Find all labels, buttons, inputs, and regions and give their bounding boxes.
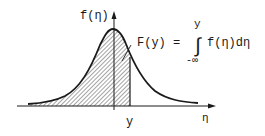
integral-upper-limit: y	[194, 18, 201, 30]
x-axis-label: η	[202, 112, 209, 124]
y-axis-arrow-icon	[112, 11, 117, 19]
shaded-cdf-region	[28, 29, 130, 106]
diagram-canvas: f(η) y η F(y) = ∫ y -∞ f(η)dη	[0, 0, 265, 136]
formula-lhs: F(y) =	[137, 36, 180, 50]
formula-integrand: f(η)dη	[207, 36, 250, 50]
integral-lower-limit: -∞	[186, 55, 198, 66]
x-marker-label: y	[126, 115, 133, 129]
x-axis-arrow-icon	[208, 104, 216, 109]
cdf-formula: F(y) = ∫ y -∞ f(η)dη	[137, 18, 250, 66]
y-axis-label: f(η)	[80, 9, 109, 23]
